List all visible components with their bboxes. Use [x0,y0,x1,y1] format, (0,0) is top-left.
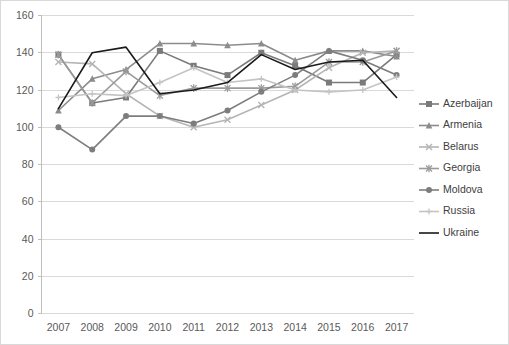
x-axis-tick-label: 2010 [148,321,172,333]
line-chart-container: 020406080100120140160 200720082009201020… [0,0,509,345]
data-point-marker [360,87,366,93]
x-axis-tick-label: 2009 [114,321,138,333]
x-axis-tick-label: 2015 [317,321,341,333]
x-axis-tick-labels: 2007200820092010201120122013201420152016… [47,321,409,333]
y-axis-tick-labels: 020406080100120140160 [16,9,34,319]
data-point-marker [426,101,432,107]
y-axis-tick-label: 0 [28,307,34,319]
data-point-marker [258,76,264,82]
legend-label-georgia[interactable]: Georgia [443,161,481,173]
y-axis-tick-label: 140 [16,46,34,58]
data-point-marker [326,48,332,54]
data-point-marker [360,80,366,86]
data-point-marker [225,107,231,113]
data-point-marker [326,80,332,86]
data-point-marker [258,102,264,108]
data-point-marker [157,80,163,86]
chart-plot-area: 020406080100120140160 200720082009201020… [1,1,509,345]
data-point-marker [55,124,61,130]
data-point-marker [55,94,61,100]
legend-label-azerbaijan[interactable]: Azerbaijan [443,97,493,109]
y-axis-tick-label: 120 [16,84,34,96]
y-axis-tick-label: 100 [16,121,34,133]
x-axis-tick-label: 2011 [182,321,205,333]
data-point-marker [258,89,264,95]
y-axis-tick-label: 40 [22,233,34,245]
legend-label-belarus[interactable]: Belarus [443,140,479,152]
data-point-marker [157,113,163,119]
data-point-marker [426,187,432,193]
data-point-marker [89,91,95,97]
data-series-group [55,40,400,153]
data-point-marker [191,121,197,127]
legend-label-russia[interactable]: Russia [443,204,475,216]
legend-label-moldova[interactable]: Moldova [443,183,483,195]
x-axis-tick-label: 2012 [216,321,240,333]
x-axis-tick-label: 2016 [351,321,375,333]
data-point-marker [426,209,432,215]
x-axis-tick-label: 2014 [283,321,307,333]
y-axis-tick-label: 160 [16,9,34,21]
legend-label-ukraine[interactable]: Ukraine [443,226,479,238]
x-axis-tick-label: 2017 [385,321,409,333]
data-point-marker [89,147,95,153]
data-point-marker [225,72,231,78]
legend-label-armenia[interactable]: Armenia [443,118,482,130]
x-axis-tick-label: 2013 [250,321,274,333]
x-axis-tick-label: 2008 [81,321,105,333]
y-axis-tick-label: 80 [22,158,34,170]
y-axis-tick-label: 60 [22,195,34,207]
x-axis-tick-label: 2007 [47,321,71,333]
data-point-marker [123,113,129,119]
y-axis-tick-label: 20 [22,270,34,282]
data-point-marker [292,72,298,78]
data-point-marker [157,48,163,54]
chart-legend: AzerbaijanArmeniaBelarusGeorgiaMoldovaRu… [419,97,493,238]
